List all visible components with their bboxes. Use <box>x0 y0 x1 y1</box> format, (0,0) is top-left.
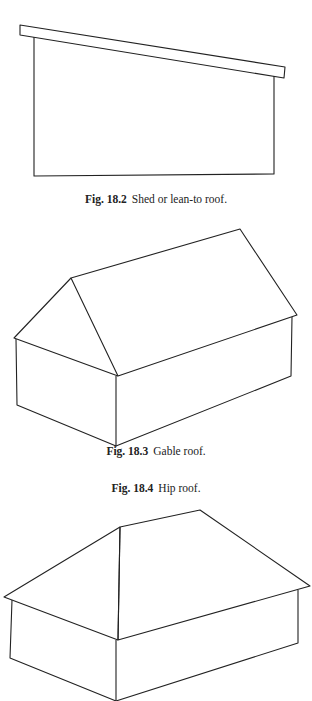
hip-roof-drawing <box>4 510 310 701</box>
figure-caption-18-2: Fig. 18.2Shed or lean-to roof. <box>0 193 312 205</box>
roof-diagrams <box>0 0 312 701</box>
figure-caption-18-3: Fig. 18.3Gable roof. <box>0 445 312 457</box>
figure-caption-18-4: Fig. 18.4Hip roof. <box>0 482 312 494</box>
gable-roof-drawing <box>14 229 297 446</box>
shed-roof-drawing <box>20 25 285 176</box>
